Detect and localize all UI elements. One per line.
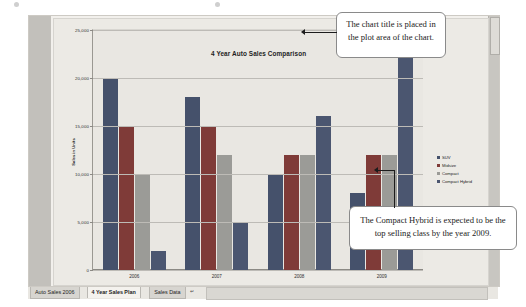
sheet-tab-auto-sales-2006[interactable]: Auto Sales 2006: [30, 287, 80, 299]
bar-compact-hybrid-2007[interactable]: [233, 222, 248, 270]
legend-item[interactable]: Midsize: [437, 161, 472, 169]
legend-color-key: [437, 156, 440, 159]
bar-midsize-2007[interactable]: [201, 126, 216, 270]
chart-title: 4 Year Auto Sales Comparison: [211, 50, 306, 57]
legend-color-key: [437, 164, 440, 167]
callout-chart-title: The chart title is placed in the plot ar…: [336, 12, 446, 58]
y-axis-tick-label: 25,000: [75, 28, 89, 33]
gridline: [93, 270, 423, 271]
legend-color-key: [437, 172, 440, 175]
y-axis-tick: [90, 78, 93, 79]
sheet-tab-4-year-sales-plan[interactable]: 4 Year Sales Plan: [87, 287, 141, 298]
y-axis-tick: [90, 126, 93, 127]
y-axis-tick-label: 0: [86, 268, 89, 273]
x-axis-tick-label: 2006: [129, 274, 139, 279]
arrow-left-icon: [374, 167, 378, 173]
scanned-page: Sales in Units 4 Year Auto Sales Compari…: [0, 0, 526, 307]
page-bottom-edge: [0, 301, 526, 307]
gridline: [93, 174, 423, 175]
toolbar-icon-fragment: [14, 2, 19, 7]
legend-color-key: [437, 180, 440, 183]
y-axis-tick: [90, 222, 93, 223]
chart-legend: SUVMidsizeCompactCompact Hybrid: [437, 153, 472, 185]
sheet-tab-sales-data[interactable]: Sales Data: [149, 287, 185, 299]
y-axis-tick-label: 20,000: [75, 76, 89, 81]
legend-item[interactable]: SUV: [437, 153, 472, 161]
x-axis-tick-label: 2008: [294, 274, 304, 279]
sheet-tab-bar: Auto Sales 20064 Year Sales PlanSales Da…: [28, 287, 498, 299]
y-axis-tick-label: 15,000: [75, 124, 89, 129]
gridline: [93, 126, 423, 127]
x-axis-tick-label: 2009: [377, 274, 387, 279]
toolbar-icon-fragment: [215, 2, 220, 7]
new-sheet-icon[interactable]: ↵: [190, 288, 206, 296]
y-axis-tick-label: 10,000: [75, 172, 89, 177]
arrow-left-icon: [301, 29, 305, 35]
callout-compact-hybrid: The Compact Hybrid is expected to be the…: [349, 206, 517, 250]
legend-item-label: Compact Hybrid: [442, 179, 472, 184]
cut-off-toolbar-strip: [0, 0, 526, 14]
legend-item[interactable]: Compact Hybrid: [437, 177, 472, 185]
bar-suv-2007[interactable]: [185, 97, 200, 270]
y-axis-tick: [90, 30, 93, 31]
legend-item[interactable]: Compact: [437, 169, 472, 177]
y-axis-title: Sales in Units: [71, 138, 76, 165]
callout-leader-line: [378, 170, 395, 171]
tab-scroll-strip[interactable]: [206, 287, 488, 300]
gridline: [93, 78, 423, 79]
bar-compact-2008[interactable]: [300, 155, 315, 270]
bar-compact-hybrid-2006[interactable]: [151, 251, 166, 270]
bar-midsize-2008[interactable]: [284, 155, 299, 270]
y-axis-tick: [90, 174, 93, 175]
callout-leader-line: [394, 170, 395, 208]
legend-item-label: Midsize: [442, 163, 456, 168]
bar-compact-hybrid-2008[interactable]: [316, 116, 331, 270]
y-axis-tick: [90, 270, 93, 271]
y-axis-tick-label: 5,000: [78, 220, 90, 225]
bar-midsize-2006[interactable]: [119, 126, 134, 270]
bar-compact-2007[interactable]: [217, 155, 232, 270]
callout-leader-line: [305, 32, 337, 33]
row-header-gutter: [29, 16, 51, 286]
vertical-scrollbar-thumb[interactable]: [490, 17, 500, 55]
legend-item-label: SUV: [442, 155, 451, 160]
x-axis-tick-label: 2007: [212, 274, 222, 279]
legend-item-label: Compact: [442, 171, 459, 176]
